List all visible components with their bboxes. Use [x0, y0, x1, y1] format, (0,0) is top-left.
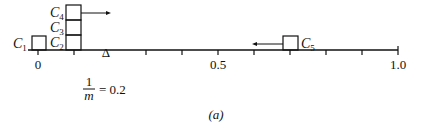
- arrow-right-icon: [81, 11, 111, 15]
- cluster-label-c2: C2: [50, 35, 64, 52]
- figure-caption: (a): [208, 107, 223, 122]
- cluster-box-c3: [66, 20, 81, 35]
- marker-triangle-icon: Δ: [102, 45, 110, 60]
- annotation-fraction: 1 m = 0.2: [83, 74, 126, 103]
- cluster-box-c1: [32, 36, 46, 50]
- cluster-label-c3: C3: [50, 20, 64, 37]
- cluster-box-c2: [66, 35, 81, 50]
- number-line-diagram: Δ 0 0.5 1.0 C1 C2 C3 C4 C5 1 m = 0.2 (a): [0, 0, 421, 129]
- svg-text:1: 1: [86, 74, 93, 89]
- svg-text:= 0.2: = 0.2: [99, 82, 126, 97]
- cluster-label-c4: C4: [50, 5, 64, 22]
- tick-label-0-5: 0.5: [210, 57, 226, 72]
- tick-label-1-0: 1.0: [390, 57, 406, 72]
- cluster-label-c1: C1: [13, 36, 27, 53]
- arrow-left-icon: [252, 42, 283, 46]
- cluster-box-c4: [66, 5, 81, 20]
- tick-label-0: 0: [35, 57, 42, 72]
- cluster-label-c5: C5: [301, 36, 315, 53]
- cluster-box-c5: [283, 36, 298, 50]
- svg-text:m: m: [84, 88, 93, 103]
